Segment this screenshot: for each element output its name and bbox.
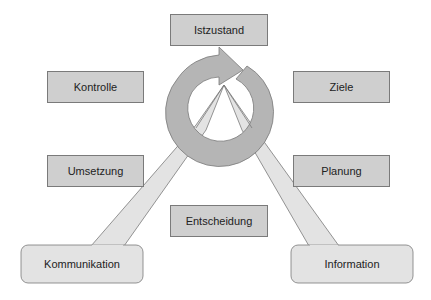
step-umsetzung: Umsetzung — [47, 155, 144, 187]
step-istzustand: Istzustand — [170, 14, 268, 46]
step-label: Kontrolle — [74, 81, 117, 93]
callout-information-label: Information — [291, 245, 413, 283]
step-planung: Planung — [293, 155, 390, 187]
callout-kommunikation-label: Kommunikation — [21, 245, 143, 283]
step-label: Planung — [321, 165, 361, 177]
cycle-arrow-icon — [166, 47, 274, 166]
step-entscheidung: Entscheidung — [170, 205, 268, 237]
step-label: Entscheidung — [186, 215, 253, 227]
step-label: Ziele — [330, 81, 354, 93]
step-label: Istzustand — [194, 24, 244, 36]
step-ziele: Ziele — [293, 71, 390, 103]
step-label: Umsetzung — [68, 165, 124, 177]
step-kontrolle: Kontrolle — [47, 71, 144, 103]
